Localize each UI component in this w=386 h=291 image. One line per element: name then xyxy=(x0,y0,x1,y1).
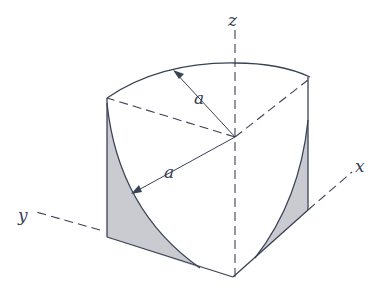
radius-arrow-front xyxy=(133,137,235,193)
left-shaded-region xyxy=(107,103,200,268)
x-axis xyxy=(308,172,352,210)
radius-label-top: a xyxy=(194,88,204,108)
solid-figure: z y x a a xyxy=(0,0,386,291)
front-curve xyxy=(233,140,234,277)
z-label: z xyxy=(227,10,238,30)
arrowhead-icon xyxy=(173,70,184,79)
y-axis xyxy=(36,212,100,230)
y-label: y xyxy=(17,205,28,225)
diagram: z y x a a xyxy=(0,0,386,291)
radius-label-front: a xyxy=(164,162,174,182)
x-label: x xyxy=(355,156,365,176)
arrowhead-icon xyxy=(131,185,142,194)
right-shaded-region xyxy=(255,120,308,258)
dashed-to-top-right xyxy=(235,80,308,137)
bottom-right-edge xyxy=(233,210,308,277)
dashed-to-top-left xyxy=(107,98,235,137)
top-arc xyxy=(107,63,310,98)
radius-arrow-top xyxy=(175,72,235,137)
